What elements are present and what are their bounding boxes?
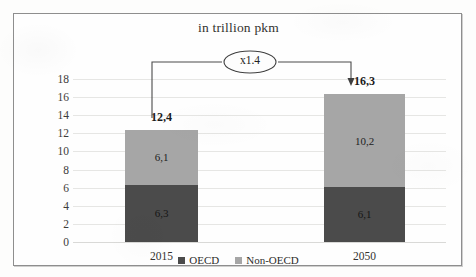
chart-title: in trillion pkm (14, 20, 463, 36)
plot-area: 12,4 6,1 6,3 2015 16,3 10,2 6,1 2050 (73, 79, 446, 242)
bar-segment-2050-oecd[interactable]: 6,1 (324, 187, 405, 242)
y-tick-0: 0 (63, 236, 69, 248)
y-tick-18: 18 (58, 73, 70, 85)
bar-total-label-2050: 16,3 (324, 74, 405, 89)
bar-segment-2015-non-oecd[interactable]: 6,1 (125, 130, 198, 185)
y-tick-16: 16 (58, 91, 70, 103)
y-tick-4: 4 (63, 200, 69, 212)
bar-segment-value-2050-oecd: 6,1 (358, 208, 372, 220)
y-axis: 18 16 14 12 10 8 6 4 2 0 (34, 79, 69, 242)
bar-segment-value-2015-non-oecd: 6,1 (155, 151, 169, 163)
bar-column-2050[interactable]: 16,3 10,2 6,1 2050 (324, 94, 405, 242)
legend-swatch-oecd-icon (178, 257, 185, 264)
chart-screenshot: in trillion pkm 18 16 14 12 10 8 6 4 2 0 (0, 0, 476, 277)
legend-label-oecd: OECD (189, 254, 219, 266)
y-tick-12: 12 (58, 127, 70, 139)
chart-legend: OECD Non-OECD (14, 254, 463, 266)
bar-segment-2015-oecd[interactable]: 6,3 (125, 185, 198, 242)
chart-frame: in trillion pkm 18 16 14 12 10 8 6 4 2 0 (13, 13, 462, 266)
bar-total-label-2015: 12,4 (125, 110, 198, 125)
bar-segment-value-2050-non-oecd: 10,2 (355, 135, 374, 147)
y-tick-14: 14 (58, 109, 70, 121)
bar-segment-value-2015-oecd: 6,3 (155, 207, 169, 219)
bar-column-2015[interactable]: 12,4 6,1 6,3 2015 (125, 130, 198, 242)
legend-swatch-non-oecd-icon (235, 257, 242, 264)
annotation-multiplier-label: x1.4 (224, 54, 276, 66)
legend-item-oecd[interactable]: OECD (178, 254, 219, 266)
y-tick-10: 10 (58, 145, 70, 157)
bar-segment-2050-non-oecd[interactable]: 10,2 (324, 94, 405, 186)
y-tick-2: 2 (63, 218, 69, 230)
legend-label-non-oecd: Non-OECD (246, 254, 299, 266)
legend-item-non-oecd[interactable]: Non-OECD (235, 254, 299, 266)
y-tick-6: 6 (63, 182, 69, 194)
y-tick-8: 8 (63, 164, 69, 176)
